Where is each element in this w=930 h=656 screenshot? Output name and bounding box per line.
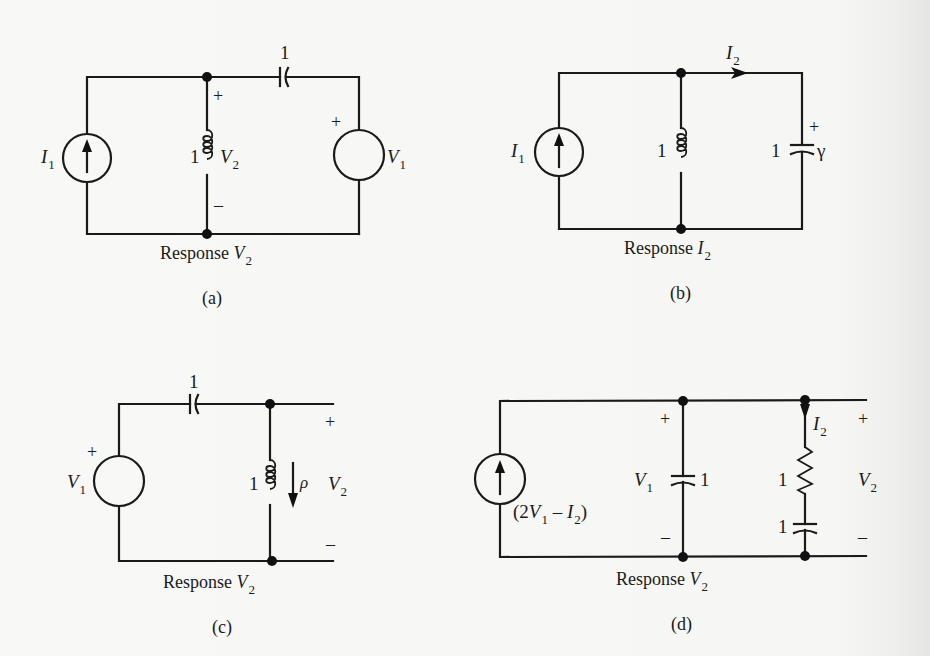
node-dot (800, 395, 810, 405)
dependent-source-label: (2V1 – I2) (513, 502, 587, 521)
current-label: I2 (726, 43, 740, 62)
figure-caption: (b) (670, 284, 691, 302)
voltage-source-icon (334, 130, 384, 180)
resistor-icon (798, 447, 812, 494)
plus-sign: + (858, 410, 868, 428)
rho-label: ρ (300, 474, 308, 491)
minus-sign: – (858, 528, 867, 546)
circuit-d (475, 395, 866, 562)
circuit-diagrams (0, 0, 930, 656)
figure-page: 1 I1 + 1 V2 – + V1 Response V2 (a) I2 I1… (0, 0, 930, 656)
capacitor-value-label: 1 (771, 141, 781, 160)
capacitor-value-label: 1 (778, 517, 788, 536)
source-voltage-label: V1 (67, 472, 86, 491)
capacitor-voltage-label: V1 (634, 470, 653, 489)
source-current-label: I1 (511, 141, 525, 160)
wire (87, 182, 359, 234)
voltage-label: V2 (220, 147, 239, 166)
current-arrow-down-icon (288, 463, 298, 508)
node-dot (202, 72, 212, 82)
resistor-value-label: 1 (778, 470, 788, 489)
figure-caption: (a) (202, 289, 222, 307)
capacitor-value-label: 1 (700, 470, 710, 489)
node-dot (202, 229, 212, 239)
plus-sign: + (660, 410, 670, 428)
gamma-label: γ (817, 141, 825, 160)
voltage-source-icon (94, 456, 144, 506)
inductor-icon (266, 460, 275, 489)
plus-sign: + (809, 118, 819, 136)
wire (286, 77, 359, 130)
inductor-value-label: 1 (190, 147, 200, 166)
plus-sign: + (213, 87, 223, 105)
node-dot (676, 68, 686, 78)
circuit-c (94, 395, 333, 566)
capacitor-value-label: 1 (280, 43, 290, 62)
wire (87, 77, 207, 134)
current-arrow-down-icon (800, 404, 810, 419)
plus-sign: + (87, 443, 97, 461)
inductor-icon (203, 130, 212, 159)
figure-caption: (d) (671, 615, 692, 633)
node-dot (800, 551, 810, 561)
source-current-label: I1 (41, 147, 55, 166)
node-dot (676, 224, 686, 234)
node-dot (678, 396, 688, 406)
current-source-icon (63, 134, 111, 182)
response-label: Response V2 (160, 244, 252, 262)
response-label: Response V2 (163, 573, 255, 591)
figure-caption: (c) (212, 618, 232, 636)
inductor-icon (677, 128, 686, 157)
minus-sign: – (326, 535, 335, 553)
capacitor-value-label: 1 (189, 372, 199, 391)
current-source-icon (535, 128, 583, 176)
inductor-value-label: 1 (249, 474, 259, 493)
current-label: I2 (813, 414, 827, 433)
plus-sign: + (325, 413, 335, 431)
minus-sign: – (214, 196, 223, 214)
node-dot (678, 552, 688, 562)
response-label: Response V2 (616, 570, 708, 588)
plus-sign: + (331, 113, 341, 131)
dependent-current-source-icon (475, 454, 525, 504)
wire (119, 506, 333, 561)
wire (119, 404, 190, 456)
source-voltage-label: V1 (387, 147, 406, 166)
output-voltage-label: V2 (858, 470, 877, 489)
output-voltage-label: V2 (328, 474, 347, 493)
node-dot (265, 399, 275, 409)
inductor-value-label: 1 (657, 141, 667, 160)
minus-sign: – (661, 528, 670, 546)
node-dot (267, 556, 277, 566)
response-label: Response I2 (624, 239, 711, 257)
